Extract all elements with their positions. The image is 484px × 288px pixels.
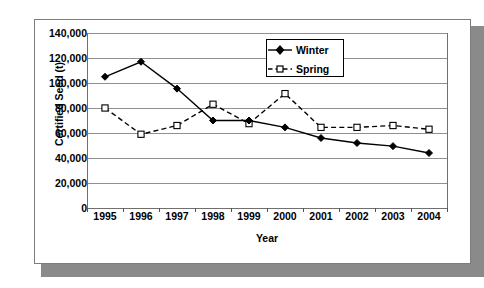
x-tick-label: 2003 [375, 210, 411, 230]
legend-item-spring: Spring [267, 60, 343, 78]
x-tick-label: 1998 [195, 210, 231, 230]
x-axis-title: Year [87, 232, 447, 244]
x-tick-label: 2001 [303, 210, 339, 230]
legend-marker-open-square-icon [267, 62, 293, 76]
x-tick-label: 1995 [87, 210, 123, 230]
legend-label-spring: Spring [296, 63, 329, 75]
x-tick-label: 1996 [123, 210, 159, 230]
x-tick-label: 2004 [411, 210, 447, 230]
series-spring [102, 91, 432, 138]
chart-legend: Winter Spring [266, 39, 344, 77]
line-chart: Certified Seed (t) 140,000 120,000 100,0… [35, 20, 472, 265]
x-tick-label: 2000 [267, 210, 303, 230]
legend-label-winter: Winter [296, 44, 329, 56]
legend-item-winter: Winter [267, 41, 343, 59]
x-tick-label: 2002 [339, 210, 375, 230]
x-tick-label: 1997 [159, 210, 195, 230]
x-axis-tick-labels: 1995 1996 1997 1998 1999 2000 2001 2002 … [87, 210, 447, 230]
x-tick-label: 1999 [231, 210, 267, 230]
chart-figure-frame: Certified Seed (t) 140,000 120,000 100,0… [34, 19, 471, 264]
legend-marker-filled-diamond-icon [267, 43, 293, 57]
